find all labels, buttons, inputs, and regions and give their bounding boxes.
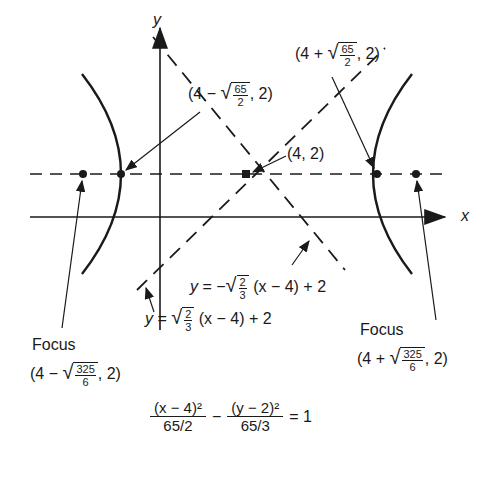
asymptote-negative-label: y = −√23 (x − 4) + 2 <box>190 275 326 301</box>
vertex-right-pointer <box>332 77 374 168</box>
vertex-right-label: (4 + √652, 2) <box>295 42 380 68</box>
vertex-right-point <box>373 170 381 178</box>
asymptote-positive-label: y = √23 (x − 4) + 2 <box>145 307 272 333</box>
asymptote-negative-pointer <box>292 241 309 265</box>
x-axis-label: x <box>461 208 469 224</box>
focus-left-title: Focus <box>32 337 76 353</box>
vertex-left-pointer <box>126 112 200 170</box>
focus-left-point <box>79 170 87 178</box>
hyperbola-equation: (x − 4)²65/2 − (y − 2)²65/3 = 1 <box>150 400 312 433</box>
focus-left-label: (4 − √3256, 2) <box>30 362 121 388</box>
focus-right-point <box>412 170 420 178</box>
y-axis-label: y <box>153 12 161 28</box>
vertex-left-label: (4 − √652, 2) <box>188 82 273 108</box>
focus-right-title: Focus <box>360 322 404 338</box>
center-point <box>242 170 250 178</box>
focus-left-pointer <box>62 181 82 328</box>
focus-right-pointer <box>417 181 436 320</box>
center-label: (4, 2) <box>287 146 324 162</box>
focus-right-label: (4 + √3256, 2) <box>357 347 448 373</box>
vertex-left-point <box>117 170 125 178</box>
